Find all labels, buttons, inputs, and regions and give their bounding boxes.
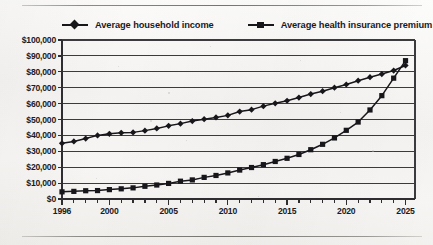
data-point-marker-diamond (94, 132, 100, 138)
data-point-marker-square (284, 156, 289, 161)
data-point-marker-square (154, 182, 159, 187)
data-point-marker-square (190, 177, 195, 182)
data-point-marker-square (261, 162, 266, 167)
data-point-marker-diamond (166, 123, 172, 129)
data-point-marker-diamond (272, 100, 278, 106)
data-point-marker-square (237, 167, 242, 172)
plot-area: $100,000$90,000$80,000$70,000$60,000$50,… (0, 0, 433, 245)
data-point-marker-diamond (248, 107, 254, 113)
data-point-marker-diamond (367, 74, 373, 80)
data-point-marker-diamond (225, 112, 231, 118)
data-point-marker-square (249, 165, 254, 170)
data-point-marker-diamond (355, 78, 361, 84)
chart-figure: Average household income Average health … (0, 0, 433, 245)
data-point-marker-square (367, 107, 372, 112)
data-point-marker-diamond (237, 108, 243, 114)
data-point-marker-diamond (177, 121, 183, 127)
data-point-marker-square (166, 181, 171, 186)
data-point-marker-square (308, 147, 313, 152)
data-point-marker-diamond (308, 91, 314, 97)
data-point-marker-square (213, 173, 218, 178)
data-point-marker-square (356, 119, 361, 124)
data-point-marker-diamond (59, 140, 65, 146)
data-point-marker-square (332, 135, 337, 140)
data-point-marker-diamond (154, 125, 160, 131)
series-line-premium (62, 61, 406, 192)
data-point-marker-diamond (130, 129, 136, 135)
data-point-marker-square (344, 128, 349, 133)
data-point-marker-diamond (71, 138, 77, 144)
data-point-marker-square (130, 185, 135, 190)
data-point-marker-square (119, 186, 124, 191)
data-point-marker-square (296, 152, 301, 157)
data-point-marker-diamond (83, 135, 89, 141)
series-line-income (62, 65, 406, 143)
data-point-marker-square (379, 93, 384, 98)
data-point-marker-diamond (391, 67, 397, 73)
data-point-marker-square (83, 188, 88, 193)
data-point-marker-diamond (106, 131, 112, 137)
data-point-marker-diamond (201, 116, 207, 122)
data-point-marker-square (403, 58, 408, 63)
data-point-marker-diamond (320, 88, 326, 94)
data-point-marker-square (391, 76, 396, 81)
data-point-marker-square (178, 179, 183, 184)
data-point-marker-square (142, 184, 147, 189)
data-point-marker-diamond (343, 81, 349, 87)
data-point-marker-square (59, 189, 64, 194)
data-point-marker-diamond (189, 118, 195, 124)
data-point-marker-square (320, 142, 325, 147)
scan-speckle (372, 150, 374, 152)
data-point-marker-diamond (296, 94, 302, 100)
scan-speckle (150, 120, 152, 122)
data-point-marker-diamond (284, 98, 290, 104)
data-point-marker-square (95, 188, 100, 193)
data-point-marker-square (71, 189, 76, 194)
chart-canvas (0, 0, 433, 245)
data-point-marker-diamond (142, 128, 148, 134)
data-point-marker-square (107, 187, 112, 192)
data-point-marker-diamond (331, 85, 337, 91)
data-point-marker-square (273, 159, 278, 164)
data-point-marker-square (225, 170, 230, 175)
data-point-marker-square (202, 175, 207, 180)
